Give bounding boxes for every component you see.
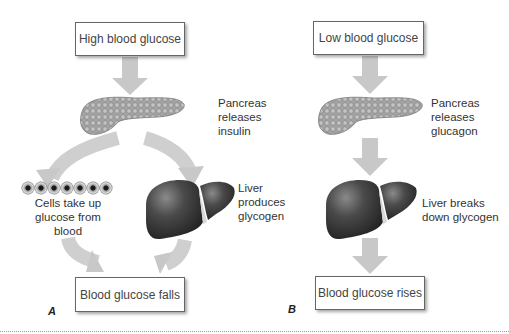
box-blood-glucose-falls: Blood glucose falls xyxy=(75,277,185,312)
box-blood-glucose-rises: Blood glucose rises xyxy=(315,276,425,310)
arrow-down-b1 xyxy=(352,56,388,94)
label-line: produces xyxy=(238,195,285,209)
arrow-curve-a-bottom-right xyxy=(166,240,185,264)
arrow-curve-a-left xyxy=(52,138,118,178)
label-line: glucose from xyxy=(20,210,116,224)
pancreas-b xyxy=(319,97,423,134)
box-high-blood-glucose: High blood glucose xyxy=(75,22,185,56)
label-line: glycogen xyxy=(238,209,285,223)
arrow-down-b2 xyxy=(352,138,388,176)
label-line: releases xyxy=(218,110,267,124)
arrow-down-a1 xyxy=(112,57,148,95)
label-line: Pancreas xyxy=(218,96,267,110)
label-liver-breaks-down-glycogen: Liver breaks down glycogen xyxy=(422,196,499,224)
label-line: Liver xyxy=(238,181,285,195)
panel-letter-b: B xyxy=(288,303,296,315)
liver-b xyxy=(326,180,417,239)
box-text: High blood glucose xyxy=(79,32,181,46)
label-line: down glycogen xyxy=(422,210,499,224)
label-line: blood xyxy=(20,224,116,238)
pancreas-a xyxy=(81,97,185,134)
box-text: Blood glucose falls xyxy=(80,288,180,302)
label-pancreas-glucagon: Pancreas releases glucagon xyxy=(431,96,480,138)
label-cells-take-up-glucose: Cells take up glucose from blood xyxy=(20,196,116,238)
liver-a xyxy=(146,180,235,239)
dotted-divider xyxy=(0,331,509,332)
arrow-curve-a-right xyxy=(145,138,190,172)
label-liver-produces-glycogen: Liver produces glycogen xyxy=(238,181,285,223)
label-line: Pancreas xyxy=(431,96,480,110)
label-line: glucagon xyxy=(431,124,480,138)
label-line: insulin xyxy=(218,124,267,138)
panel-letter-a: A xyxy=(48,305,56,317)
cells-row xyxy=(22,182,113,195)
label-line: Liver breaks xyxy=(422,196,499,210)
label-line: releases xyxy=(431,110,480,124)
arrow-down-b3 xyxy=(352,238,388,274)
box-low-blood-glucose: Low blood glucose xyxy=(313,21,424,55)
label-pancreas-insulin: Pancreas releases insulin xyxy=(218,96,267,138)
box-text: Low blood glucose xyxy=(319,31,418,45)
box-text: Blood glucose rises xyxy=(318,286,422,300)
label-line: Cells take up xyxy=(20,196,116,210)
